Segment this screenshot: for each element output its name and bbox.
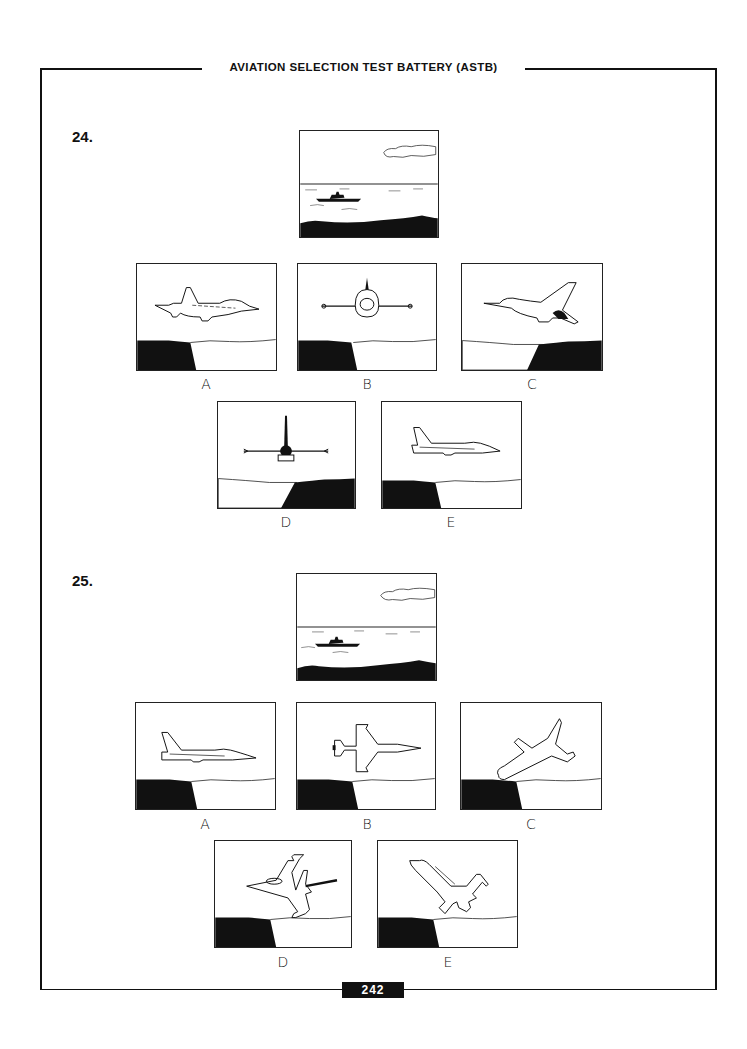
jet-side-view-icon [136, 703, 275, 809]
question-25-option-b-panel[interactable] [296, 702, 436, 810]
jet-head-on-icon [298, 264, 436, 370]
page-header-title: AVIATION SELECTION TEST BATTERY (ASTB) [202, 61, 525, 73]
question-25-option-e-label: E [433, 954, 463, 970]
question-25-option-b-label: B [352, 816, 382, 832]
question-24-option-b-panel[interactable] [297, 263, 437, 371]
question-25-option-c-label: C [516, 816, 546, 832]
jet-diving-nose-left-icon [378, 841, 517, 947]
question-24-option-d-panel[interactable] [217, 401, 356, 509]
question-25-option-d-label: D [268, 954, 298, 970]
question-24-option-e-label: E [436, 514, 466, 530]
question-24-option-d-label: D [271, 514, 301, 530]
frame-top-rule-left [40, 68, 202, 70]
question-25-option-a-panel[interactable] [135, 702, 276, 810]
jet-side-view-alt-icon [382, 402, 521, 508]
question-24-option-c-label: C [517, 376, 547, 392]
ship-scene-icon [300, 131, 438, 237]
jet-banked-diving-icon [461, 703, 601, 809]
question-25-option-d-panel[interactable] [214, 840, 352, 948]
question-25-number: 25. [72, 572, 93, 589]
question-25-reference-panel [296, 573, 437, 681]
jet-top-view-icon [297, 703, 435, 809]
question-24-option-c-panel[interactable] [461, 263, 603, 371]
frame-left-rule [40, 68, 42, 990]
question-25-option-e-panel[interactable] [377, 840, 518, 948]
question-24-number: 24. [72, 128, 93, 145]
question-24-option-a-label: A [191, 376, 221, 392]
frame-right-rule [715, 68, 717, 990]
ship-scene-icon [297, 574, 436, 680]
frame-bottom-rule-left [40, 989, 342, 990]
jet-underside-banked-icon [215, 841, 351, 947]
frame-bottom-rule-right [404, 989, 717, 990]
question-25-option-a-label: A [190, 816, 220, 832]
question-24-option-a-panel[interactable] [136, 263, 277, 371]
question-25-option-c-panel[interactable] [460, 702, 602, 810]
question-24-reference-panel [299, 130, 439, 238]
question-24-option-e-panel[interactable] [381, 401, 522, 509]
jet-side-view-icon [137, 264, 276, 370]
jet-climbing-icon [462, 264, 602, 370]
page-number-badge: 242 [342, 982, 404, 998]
frame-top-rule-right [525, 68, 717, 70]
jet-rear-view-icon [218, 402, 355, 508]
question-24-option-b-label: B [352, 376, 382, 392]
